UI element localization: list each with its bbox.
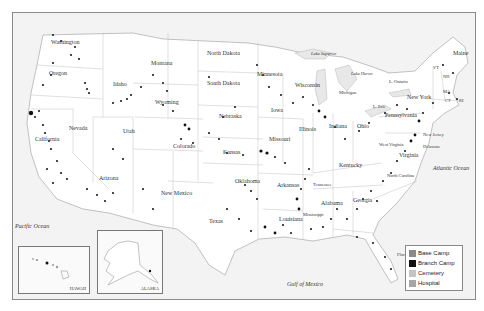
state-label: VT: [433, 66, 439, 71]
base-camp-swatch: [409, 250, 416, 257]
state-label: Nebraska: [219, 113, 242, 119]
legend-item-cemetery: Cemetery: [409, 268, 459, 278]
legend-label: Base Camp: [418, 250, 449, 256]
state-label: Arkansas: [277, 182, 299, 188]
legend-label: Hospital: [418, 280, 440, 286]
state-label: New Mexico: [161, 190, 192, 196]
state-label: South Dakota: [207, 80, 240, 86]
state-label: Ohio: [357, 123, 369, 129]
state-label: Wyoming: [155, 99, 179, 105]
state-label: Delaware: [423, 145, 440, 150]
state-label: Tennessee: [313, 183, 331, 188]
state-label: Alabama: [321, 200, 343, 206]
map-legend: Base Camp Branch Camp Cemetery Hospital: [405, 245, 463, 291]
legend-label: Cemetery: [418, 270, 444, 276]
ocean-label: Atlantic Ocean: [433, 165, 469, 171]
state-label: New Jersey: [423, 133, 444, 138]
state-label: Utah: [123, 128, 135, 134]
state-label: Louisiana: [279, 216, 303, 222]
state-label: Oregon: [49, 70, 67, 76]
state-label: North Dakota: [207, 50, 240, 56]
state-label: Texas: [209, 218, 223, 224]
state-label: MA: [443, 90, 450, 95]
state-label: Georgia: [353, 197, 372, 203]
state-label: Montana: [151, 60, 172, 66]
legend-label: Branch Camp: [418, 260, 455, 266]
legend-item-branch-camp: Branch Camp: [409, 258, 459, 268]
state-label: Virginia: [399, 152, 419, 158]
branch-camp-swatch: [409, 260, 416, 267]
state-label: Oklahoma: [235, 178, 260, 184]
state-label: Arizona: [99, 175, 118, 181]
lake-label: Lake Huron: [351, 72, 372, 77]
legend-item-base-camp: Base Camp: [409, 248, 459, 258]
state-label: NH: [443, 75, 450, 80]
state-label: RI: [459, 99, 464, 104]
state-label: Colorado: [173, 143, 195, 149]
lake-label: Lake Superior: [311, 52, 337, 57]
hawaii-inset: HAWAII: [18, 246, 90, 294]
state-label: West Virginia: [379, 143, 404, 148]
state-label: Michigan: [339, 91, 356, 96]
state-label: Kansas: [223, 149, 240, 155]
state-label: Missouri: [269, 136, 290, 142]
ocean-label: Pacific Ocean: [15, 223, 49, 229]
state-label: Mississippi: [303, 213, 324, 218]
state-label: Wisconsin: [295, 82, 320, 88]
state-label: CT: [445, 99, 451, 104]
state-label: Minnesota: [257, 71, 282, 77]
lake-label: L. Ontario: [389, 80, 408, 85]
state-label: Indiana: [329, 123, 347, 129]
hospital-swatch: [409, 280, 416, 287]
ocean-label: Gulf of Mexico: [287, 281, 323, 287]
state-label: Idaho: [113, 81, 127, 87]
state-label: Washington: [51, 39, 80, 45]
state-label: New York: [407, 94, 431, 100]
state-label: Pennsylvania: [385, 112, 417, 118]
state-label: California: [35, 136, 59, 142]
state-label: Iowa: [271, 107, 283, 113]
state-label: Kentucky: [339, 162, 362, 168]
hawaii-label: HAWAII: [70, 286, 86, 291]
cemetery-swatch: [409, 270, 416, 277]
state-label: Maine: [453, 50, 468, 56]
state-label: Nevada: [69, 125, 87, 131]
alaska-label: ALASKA: [141, 286, 159, 291]
state-label: Illinois: [299, 126, 316, 132]
lake-label: L. Erie: [373, 105, 386, 110]
legend-item-hospital: Hospital: [409, 278, 459, 288]
alaska-inset: ALASKA: [97, 230, 163, 294]
state-label: North Carolina: [387, 174, 414, 179]
